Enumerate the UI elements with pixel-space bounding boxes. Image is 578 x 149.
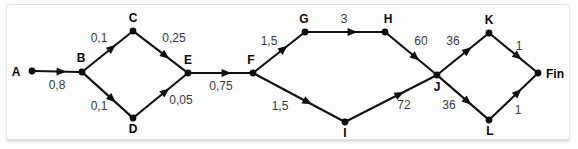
arrowhead-icon	[57, 67, 67, 75]
edge-weight-b-d: 0,1	[91, 99, 108, 113]
node-i[interactable]	[342, 119, 349, 126]
node-c[interactable]	[130, 28, 137, 35]
edge-weight-f-g: 1,5	[261, 34, 278, 48]
node-label-a: A	[12, 65, 21, 79]
edge-weight-f-i: 1,5	[272, 99, 289, 113]
edge-weight-b-c: 0,1	[91, 31, 108, 45]
edge-weight-j-k: 36	[446, 34, 460, 48]
network-graph: 0,80,10,10,250,050,751,51,536072363611 A…	[0, 0, 578, 149]
edge-weight-c-e: 0,25	[162, 31, 186, 45]
edge-weight-e-f: 0,75	[209, 79, 233, 93]
edge-weight-k-fin: 1	[516, 39, 523, 53]
edge-a-b	[35, 67, 79, 75]
node-h[interactable]	[382, 29, 389, 36]
node-label-h: H	[384, 12, 393, 26]
node-label-g: G	[299, 12, 308, 26]
node-fin[interactable]	[535, 70, 542, 77]
node-label-k: K	[485, 13, 494, 27]
node-d[interactable]	[130, 115, 137, 122]
node-label-l: L	[486, 124, 493, 138]
node-k[interactable]	[486, 30, 493, 37]
edge-weight-j-l: 36	[442, 98, 456, 112]
edge-weight-d-e: 0,05	[169, 93, 193, 107]
arrowhead-icon	[348, 28, 358, 36]
node-label-i: I	[343, 126, 346, 140]
edge-weight-a-b: 0,8	[49, 78, 66, 92]
node-l[interactable]	[486, 117, 493, 124]
node-e[interactable]	[185, 70, 192, 77]
node-label-d: D	[129, 122, 138, 136]
node-a[interactable]	[29, 68, 36, 75]
edge-l-fin	[491, 75, 535, 118]
node-label-f: F	[247, 53, 254, 67]
node-g[interactable]	[302, 29, 309, 36]
node-label-b: B	[77, 51, 86, 65]
node-label-fin: Fin	[546, 67, 564, 81]
edge-weight-h-j: 60	[414, 34, 428, 48]
edge-weight-g-h: 3	[341, 12, 348, 26]
edge-e-f	[191, 69, 250, 77]
edge-weight-l-fin: 1	[515, 103, 522, 117]
node-label-j: J	[434, 80, 441, 94]
node-label-e: E	[184, 53, 192, 67]
diagram-canvas: 0,80,10,10,250,050,751,51,536072363611 A…	[0, 0, 578, 149]
node-j[interactable]	[434, 72, 441, 79]
edge-f-i	[256, 75, 342, 121]
edge-g-h	[308, 28, 382, 36]
node-f[interactable]	[250, 70, 257, 77]
node-label-c: C	[129, 11, 138, 25]
edge-k-fin	[491, 35, 535, 71]
arrowhead-icon	[222, 69, 232, 77]
edge-weight-i-j: 72	[397, 98, 411, 112]
edge-i-j	[348, 76, 434, 120]
node-b[interactable]	[79, 69, 86, 76]
